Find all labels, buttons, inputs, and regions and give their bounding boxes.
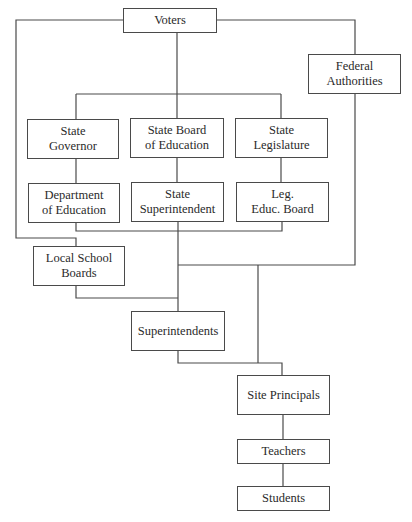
node-state-legislature: State Legislature [235, 118, 328, 158]
node-superintendents: Superintendents [131, 311, 225, 351]
node-label: Local School Boards [46, 251, 112, 281]
governance-diagram: Voters Federal Authorities State Governo… [0, 0, 412, 522]
node-voters: Voters [123, 8, 217, 33]
node-label: Voters [154, 13, 186, 28]
node-label: Federal Authorities [326, 59, 382, 89]
node-label: Site Principals [247, 388, 320, 403]
node-state-governor: State Governor [27, 119, 119, 159]
node-label: State Legislature [253, 123, 309, 153]
edge-voters-federal [217, 20, 355, 54]
node-label: Leg. Educ. Board [251, 187, 313, 217]
node-department-of-education: Department of Education [28, 183, 120, 223]
node-federal-authorities: Federal Authorities [308, 54, 401, 94]
node-label: State Superintendent [140, 187, 216, 217]
edge-local-boards-superintendents [76, 286, 178, 298]
node-label: Superintendents [138, 324, 219, 339]
node-label: State Governor [49, 124, 97, 154]
node-label: Students [262, 491, 305, 506]
node-site-principals: Site Principals [237, 375, 330, 415]
node-label: State Board of Education [145, 123, 209, 153]
node-leg-educ-board: Leg. Educ. Board [236, 182, 329, 222]
node-state-superintendent: State Superintendent [131, 182, 224, 222]
node-teachers: Teachers [237, 439, 330, 464]
node-local-school-boards: Local School Boards [33, 246, 125, 286]
node-label: Department of Education [42, 188, 106, 218]
node-state-board-of-education: State Board of Education [130, 118, 224, 158]
node-label: Teachers [261, 444, 305, 459]
edge-superintendents-principals [178, 350, 282, 375]
node-students: Students [237, 486, 330, 511]
